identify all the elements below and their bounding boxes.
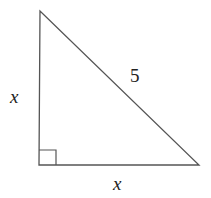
hypotenuse-label: 5 — [130, 65, 140, 86]
right-angle-marker — [39, 150, 56, 165]
triangle — [39, 11, 199, 165]
bottom-leg-label: x — [112, 173, 122, 194]
triangle-diagram: x 5 x — [0, 0, 211, 198]
left-leg-label: x — [9, 86, 19, 107]
